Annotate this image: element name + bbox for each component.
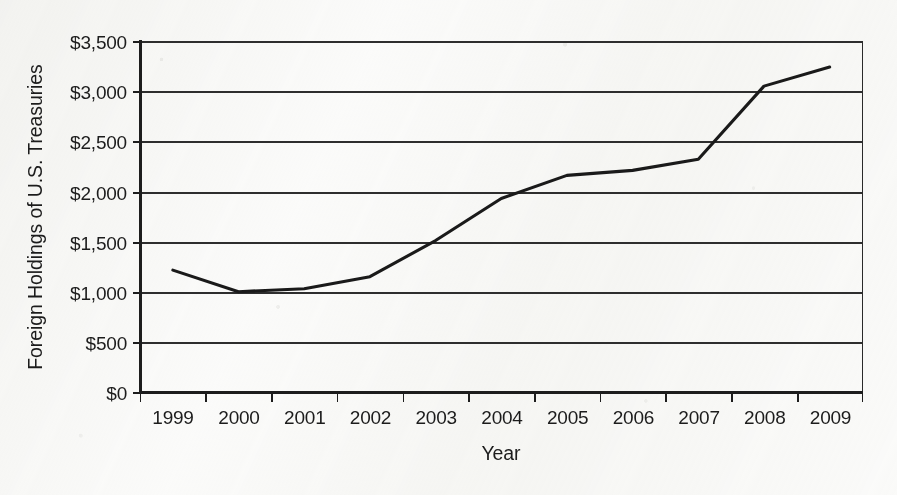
y-tick-label-1500: $1,500 xyxy=(70,233,127,254)
x-tick-label-2005: 2005 xyxy=(547,407,588,428)
x-tick-marks xyxy=(141,393,863,402)
x-tick-labels: 1999 2000 2001 2002 2003 2004 2005 2006 … xyxy=(152,407,851,428)
x-tick-label-1999: 1999 xyxy=(152,407,193,428)
chart-page: $3,500 $3,000 $2,500 $2,000 $1,500 $1,00… xyxy=(0,0,897,495)
x-tick-label-2000: 2000 xyxy=(218,407,259,428)
x-tick-label-2009: 2009 xyxy=(810,407,851,428)
y-tick-labels: $3,500 $3,000 $2,500 $2,000 $1,500 $1,00… xyxy=(70,32,127,404)
x-tick-label-2006: 2006 xyxy=(613,407,654,428)
y-tick-label-1000: $1,000 xyxy=(70,283,127,304)
y-tick-label-3500: $3,500 xyxy=(70,32,127,53)
y-tick-label-3000: $3,000 xyxy=(70,82,127,103)
x-tick-label-2002: 2002 xyxy=(350,407,391,428)
y-tick-label-500: $500 xyxy=(86,333,127,354)
y-axis-title: Foreign Holdings of U.S. Treasuries xyxy=(24,64,46,370)
x-tick-label-2004: 2004 xyxy=(481,407,523,428)
data-series-line xyxy=(173,67,830,292)
y-tick-label-2000: $2,000 xyxy=(70,183,127,204)
x-axis-title: Year xyxy=(482,442,522,464)
y-tick-label-2500: $2,500 xyxy=(70,132,127,153)
x-tick-label-2008: 2008 xyxy=(744,407,785,428)
y-tick-label-0: $0 xyxy=(106,383,127,404)
x-tick-label-2007: 2007 xyxy=(678,407,719,428)
x-tick-label-2003: 2003 xyxy=(415,407,456,428)
gridline-group xyxy=(140,42,863,343)
line-chart: $3,500 $3,000 $2,500 $2,000 $1,500 $1,00… xyxy=(0,0,897,495)
x-tick-label-2001: 2001 xyxy=(284,407,325,428)
